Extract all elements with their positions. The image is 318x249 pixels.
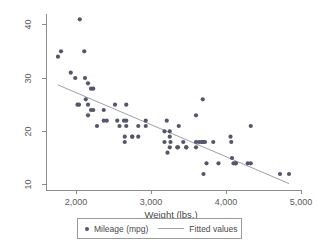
x-axis-tick-label: 2,000 — [53, 196, 99, 208]
scatter-point — [124, 119, 128, 123]
scatter-point — [216, 161, 220, 165]
y-axis-tick-label: 10 — [23, 172, 34, 198]
scatter-point — [144, 124, 148, 128]
scatter-point — [78, 17, 82, 21]
x-axis-tick-label: 4,000 — [203, 196, 249, 208]
scatter-point — [130, 135, 134, 139]
scatter-point — [95, 124, 99, 128]
scatter-point — [144, 119, 148, 123]
scatter-point — [229, 140, 233, 144]
axis-lines — [46, 14, 301, 190]
scatter-point — [176, 145, 180, 149]
scatter-point — [228, 135, 232, 139]
scatter-point — [123, 135, 127, 139]
scatter-point — [246, 161, 250, 165]
scatter-point — [194, 145, 198, 149]
scatter-point — [56, 55, 60, 59]
scatter-point — [230, 156, 234, 160]
scatter-point — [165, 119, 169, 123]
scatter-point — [136, 135, 140, 139]
scatter-point — [204, 161, 208, 165]
chart-legend: Mileage (mpg) Fitted values — [77, 218, 242, 239]
scatter-point — [91, 87, 95, 91]
y-axis-tick-label: 30 — [23, 65, 34, 91]
line-marker-icon — [158, 228, 184, 229]
scatter-point — [162, 129, 166, 133]
x-axis-tick-label: 3,000 — [128, 196, 174, 208]
scatter-point — [231, 161, 235, 165]
scatter-point — [86, 81, 90, 85]
scatter-point — [124, 103, 128, 107]
chart-figure: 10203040 2,0003,0004,0005,000 Weight (lb… — [0, 0, 318, 249]
scatter-point — [102, 108, 106, 112]
scatter-point — [184, 145, 188, 149]
legend-label-fitted-values: Fitted values — [189, 224, 237, 234]
scatter-point — [84, 97, 88, 101]
scatter-points — [56, 17, 291, 176]
scatter-point — [124, 124, 128, 128]
scatter-point — [86, 113, 90, 117]
scatter-point — [201, 140, 205, 144]
y-axis-tick-label: 40 — [23, 12, 34, 38]
legend-item-fitted-values[interactable]: Fitted values — [158, 219, 237, 238]
scatter-point — [177, 124, 181, 128]
x-axis-tick-label: 5,000 — [278, 196, 318, 208]
circle-marker-icon — [85, 227, 89, 231]
scatter-point — [287, 172, 291, 176]
scatter-point — [168, 145, 172, 149]
fitted-values-segment — [58, 85, 289, 184]
scatter-point — [117, 124, 121, 128]
scatter-point — [168, 140, 172, 144]
y-axis-tick-label: 20 — [23, 118, 34, 144]
scatter-point — [181, 140, 185, 144]
scatter-point — [83, 76, 87, 80]
scatter-point — [123, 140, 127, 144]
scatter-point — [69, 71, 73, 75]
y-axis-ticks — [42, 25, 46, 185]
scatter-point — [201, 97, 205, 101]
scatter-point — [77, 103, 81, 107]
x-axis-ticks — [76, 190, 301, 194]
scatter-point — [86, 103, 90, 107]
scatter-point — [249, 124, 253, 128]
scatter-point — [113, 103, 117, 107]
scatter-point — [278, 172, 282, 176]
scatter-point — [73, 76, 77, 80]
legend-item-mileage[interactable]: Mileage (mpg) — [85, 219, 148, 238]
scatter-point — [59, 49, 63, 53]
scatter-point — [197, 140, 201, 144]
scatter-point — [165, 151, 169, 155]
scatter-point — [201, 172, 205, 176]
scatter-point — [168, 129, 172, 133]
scatter-point — [168, 135, 172, 139]
legend-label-mileage: Mileage (mpg) — [94, 224, 148, 234]
scatter-point — [115, 119, 119, 123]
scatter-point — [194, 113, 198, 117]
scatter-point — [136, 124, 140, 128]
scatter-point — [211, 140, 215, 144]
scatter-point — [91, 108, 95, 112]
scatter-point — [82, 49, 86, 53]
fitted-values-line — [58, 85, 289, 184]
scatter-point — [162, 140, 166, 144]
scatter-point — [105, 119, 109, 123]
